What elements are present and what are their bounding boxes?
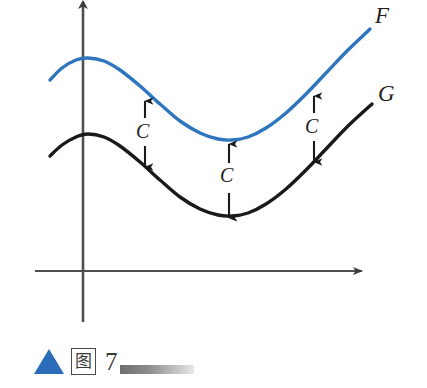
blue-triangle-icon [34, 349, 64, 374]
curve-f [50, 29, 370, 140]
plot-canvas [0, 0, 427, 388]
gap-label-right: C [305, 116, 318, 136]
curve-label-f: F [375, 4, 389, 27]
figure-glyph-box: 图 [71, 348, 96, 375]
curve-label-g: G [378, 82, 395, 105]
gap-label-left: C [136, 121, 149, 141]
curve-g [50, 104, 372, 216]
figure-caption: 图 7 [34, 344, 194, 378]
figure-number: 7 [105, 349, 118, 374]
caption-gradient-rule [120, 365, 194, 374]
figure-container: F G C C C 图 7 [0, 0, 427, 388]
gap-label-middle: C [220, 165, 233, 185]
